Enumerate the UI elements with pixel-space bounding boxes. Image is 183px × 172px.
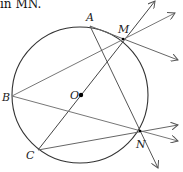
ray-am: [90, 26, 178, 60]
center-dot: [79, 93, 83, 97]
label-b: B: [1, 91, 10, 104]
ray-bm: [12, 13, 175, 96]
point-n: [139, 130, 142, 133]
caption-fragment: in MN.: [0, 0, 41, 11]
ray-bn: [12, 96, 178, 141]
point-m: [122, 38, 125, 41]
ray-cm: [38, 1, 155, 150]
geometry-diagram: in MN. A M B O C N: [0, 0, 183, 172]
label-m: M: [117, 23, 130, 36]
label-c: C: [26, 149, 35, 162]
label-o: O: [70, 89, 79, 102]
ray-cn: [38, 125, 178, 150]
label-a: A: [85, 11, 94, 24]
label-n: N: [135, 138, 146, 151]
